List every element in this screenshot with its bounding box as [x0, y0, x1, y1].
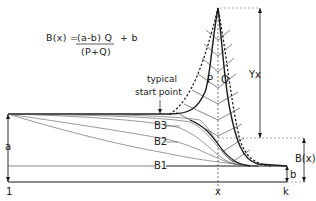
- arrow-up-icon: [6, 114, 10, 119]
- Q-label: Q: [221, 75, 229, 85]
- a-label: a: [5, 142, 11, 152]
- Yx-label: Yx: [249, 70, 261, 80]
- curve-inner-1: [8, 114, 258, 166]
- B3-label: B3: [154, 121, 167, 131]
- x-label: x: [215, 187, 221, 197]
- B2-label: B2: [154, 137, 167, 147]
- curve-inner-2: [8, 114, 258, 166]
- b-label: b: [290, 170, 296, 180]
- typical-label: typical: [147, 75, 177, 84]
- formula-numerator: (a-b) Q: [77, 33, 112, 43]
- formula-lhs: B(x) =: [46, 33, 78, 43]
- start-point-label: start point: [135, 88, 182, 97]
- arrow-up-icon: [258, 8, 262, 13]
- P-label: P: [207, 75, 213, 85]
- arrow-down-icon: [302, 177, 306, 182]
- B1-label: B1: [154, 161, 167, 171]
- formula-denominator: (P+Q): [81, 47, 111, 57]
- arrow-down-icon: [158, 109, 162, 114]
- one-label: 1: [6, 187, 12, 197]
- Bx-label: B(x): [295, 154, 316, 164]
- curve-B2: [8, 114, 258, 166]
- k-label: k: [283, 187, 289, 197]
- arrow-down-icon: [258, 133, 262, 138]
- curve-inner-3: [8, 114, 258, 166]
- curve-B3: [8, 114, 258, 166]
- arrow-down-icon: [6, 177, 10, 182]
- arrow-up-icon: [302, 138, 306, 143]
- formula-plus-b: + b: [120, 33, 138, 43]
